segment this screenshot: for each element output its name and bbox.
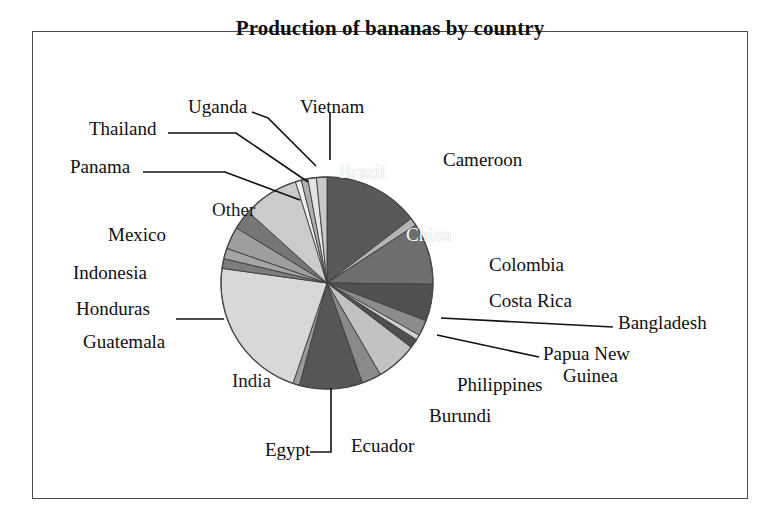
slice-label-honduras: Honduras <box>76 299 150 320</box>
slice-label-costa-rica: Costa Rica <box>489 291 572 312</box>
slice-label-uganda: Uganda <box>188 97 247 118</box>
slice-label-vietnam: Vietnam <box>300 97 364 118</box>
leader-line-uganda <box>252 112 316 166</box>
slice-label-indonesia: Indonesia <box>73 263 147 284</box>
leader-line-thailand <box>168 133 308 182</box>
slice-label-india: India <box>232 370 271 392</box>
slice-label-papua-new-guinea-line2: Guinea <box>563 366 618 387</box>
chart-page: Production of bananas by country Brazil … <box>0 0 780 521</box>
leader-line-egypt <box>310 388 331 452</box>
slice-label-brazil: Brazil <box>339 161 385 183</box>
slice-label-panama: Panama <box>70 157 130 178</box>
slice-label-ecuador: Ecuador <box>351 436 414 457</box>
slice-label-cameroon: Cameroon <box>443 150 522 171</box>
leader-line-bangladesh <box>441 318 613 327</box>
slice-label-mexico: Mexico <box>108 225 166 246</box>
slice-label-china: China <box>406 224 451 246</box>
slice-label-colombia: Colombia <box>489 255 564 276</box>
slice-label-bangladesh: Bangladesh <box>618 313 707 334</box>
slice-label-other: Other <box>212 199 255 221</box>
slice-label-egypt: Egypt <box>265 440 310 461</box>
slice-label-burundi: Burundi <box>429 406 491 427</box>
slice-label-papua-new-guinea-line1: Papua New <box>543 344 630 365</box>
slice-label-philippines: Philippines <box>457 375 543 396</box>
leader-line-papua <box>437 335 539 357</box>
slice-label-thailand: Thailand <box>89 119 157 140</box>
slice-label-guatemala: Guatemala <box>83 332 165 353</box>
